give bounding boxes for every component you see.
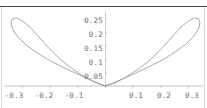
x-tick-label: 0.2 (152, 92, 176, 100)
x-tick-label: 0.1 (124, 92, 148, 100)
y-tick-label: 0.05 (62, 73, 103, 81)
curve-right-lobe (106, 18, 200, 86)
x-tick-label: -0.1 (62, 92, 86, 100)
plot-figure: 0.250.20.150.10.05 -0.3-0.2-0.10.10.20.3 (0, 0, 207, 108)
y-tick-label: 0.1 (62, 59, 103, 67)
y-tick-label: 0.2 (62, 31, 103, 39)
x-tick-label: 0.3 (180, 92, 204, 100)
y-tick-label: 0.25 (62, 17, 103, 25)
x-tick-label: -0.2 (32, 92, 56, 100)
y-tick-label: 0.15 (62, 45, 103, 53)
x-tick-label: -0.3 (2, 92, 26, 100)
